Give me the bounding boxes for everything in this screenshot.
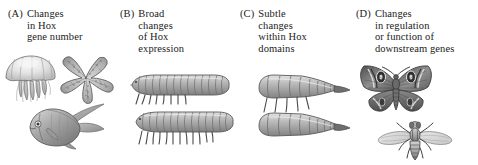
panel-d-caption: (D) Changes in regulation or function of…	[356, 8, 454, 54]
panel-b-caption-text: Broad changes of Hox expression	[138, 8, 184, 54]
panel-c-artwork	[232, 68, 350, 165]
larva-few-legs-illustration	[126, 72, 234, 106]
panel-a: (A) Changes in Hox gene number	[0, 0, 118, 165]
panel-a-caption: (A) Changes in Hox gene number	[8, 8, 83, 43]
hox-evolution-figure: (A) Changes in Hox gene number	[0, 0, 478, 165]
panel-a-artwork	[0, 52, 118, 165]
panel-b: (B) Broad changes of Hox expression	[112, 0, 234, 165]
panel-a-tag: (A)	[8, 8, 23, 20]
panel-a-caption-text: Changes in Hox gene number	[27, 8, 83, 43]
panel-c-caption: (C) Subtle changes within Hox domains	[240, 8, 307, 54]
panel-d: (D) Changes in regulation or function of…	[348, 0, 478, 165]
fly-illustration	[376, 114, 454, 162]
tapered-larva-legless-illustration	[256, 110, 352, 144]
tapered-larva-with-legs-illustration	[256, 72, 352, 114]
jellyfish-illustration	[2, 54, 60, 104]
panel-d-caption-text: Changes in regulation or function of dow…	[375, 8, 454, 54]
angelfish-illustration	[18, 100, 108, 158]
panel-c-caption-text: Subtle changes within Hox domains	[258, 8, 307, 54]
panel-d-tag: (D)	[356, 8, 371, 20]
starfish-illustration	[55, 52, 117, 104]
moth-illustration	[356, 62, 436, 120]
panel-d-artwork	[348, 58, 478, 165]
panel-c-tag: (C)	[240, 8, 254, 20]
panel-b-tag: (B)	[120, 8, 134, 20]
panel-b-caption: (B) Broad changes of Hox expression	[120, 8, 184, 54]
panel-b-artwork	[112, 68, 234, 165]
larva-many-legs-illustration	[130, 108, 238, 146]
panel-c: (C) Subtle changes within Hox domains	[232, 0, 350, 165]
